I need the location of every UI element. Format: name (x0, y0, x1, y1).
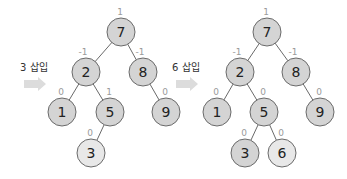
balance-factor: 0 (58, 87, 64, 97)
tree-node-3: 30 (77, 128, 105, 167)
tree-node-8: 8-1 (129, 47, 157, 86)
step-label: 6 삽입 (172, 61, 200, 73)
tree-node-5: 50 (250, 87, 278, 126)
node-value: 6 (278, 145, 287, 161)
step-label: 3 삽입 (20, 61, 48, 73)
right-arrow-icon (24, 77, 46, 91)
tree-node-2: 2-1 (72, 47, 100, 86)
right-arrow-icon (176, 77, 198, 91)
step-indicator-2: 6 삽입 (172, 61, 200, 91)
tree-node-5: 51 (96, 87, 124, 126)
tree-nodes-2: 712-18-11050903060 (203, 7, 334, 167)
node-value: 1 (213, 104, 222, 120)
tree-node-8: 8-1 (282, 47, 310, 86)
avl-insertion-diagram: 712-18-110519030712-18-11050903060 3 삽입6… (0, 0, 347, 179)
balance-factor: -1 (136, 47, 145, 57)
tree-node-1: 10 (203, 87, 231, 126)
tree-nodes-1: 712-18-110519030 (48, 7, 180, 167)
balance-factor: 1 (117, 7, 123, 17)
balance-factor: -1 (79, 47, 88, 57)
balance-factor: 0 (162, 87, 168, 97)
node-value: 2 (236, 64, 245, 80)
balance-factor: -1 (289, 47, 298, 57)
tree-node-9: 90 (306, 87, 334, 126)
node-value: 2 (82, 64, 91, 80)
step-indicator-1: 3 삽입 (20, 61, 48, 91)
node-value: 5 (106, 104, 115, 120)
tree-node-6: 60 (268, 128, 296, 167)
tree-node-1: 10 (48, 87, 76, 126)
tree-node-7: 71 (107, 7, 135, 46)
tree-node-3: 30 (231, 128, 259, 167)
node-value: 3 (87, 145, 96, 161)
node-value: 3 (241, 145, 250, 161)
node-value: 8 (139, 64, 148, 80)
balance-factor: 1 (263, 7, 269, 17)
balance-factor: 0 (278, 128, 284, 138)
node-value: 7 (117, 24, 126, 40)
node-value: 5 (260, 104, 269, 120)
node-value: 8 (292, 64, 301, 80)
node-value: 9 (162, 104, 171, 120)
balance-factor: 0 (87, 128, 93, 138)
tree-node-9: 90 (152, 87, 180, 126)
tree-node-2: 2-1 (226, 47, 254, 86)
node-value: 1 (58, 104, 67, 120)
balance-factor: 1 (106, 87, 112, 97)
tree-node-7: 71 (253, 7, 281, 46)
balance-factor: 0 (260, 87, 266, 97)
node-value: 9 (316, 104, 325, 120)
balance-factor: 0 (316, 87, 322, 97)
balance-factor: 0 (213, 87, 219, 97)
node-value: 7 (263, 24, 272, 40)
balance-factor: -1 (233, 47, 242, 57)
balance-factor: 0 (241, 128, 247, 138)
